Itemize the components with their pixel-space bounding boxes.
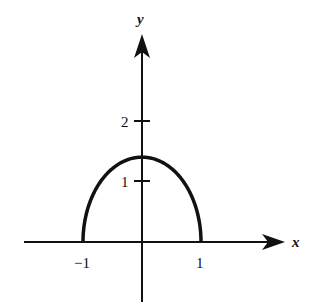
chart-canvas: y x 2 1 −1 1 [0, 0, 317, 306]
y-tick-label-2: 2 [121, 114, 129, 130]
x-tick-label-1: 1 [196, 255, 204, 271]
y-tick-label-1: 1 [121, 174, 129, 190]
x-axis-label: x [291, 234, 300, 250]
y-axis-label: y [135, 11, 144, 27]
x-tick-label-neg1: −1 [74, 255, 90, 271]
